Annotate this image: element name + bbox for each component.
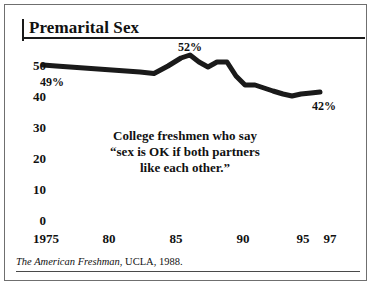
y-tick-0: 0 [20,214,46,227]
value-label-peak: 52% [178,41,202,53]
source-note: The American Freshman, UCLA, 1988. [16,256,183,268]
source-publication: The American Freshman [16,256,120,267]
value-label-end: 42% [312,100,336,112]
x-tick-90: 90 [228,232,258,245]
y-tick-20: 20 [20,152,46,165]
x-tick-1975: 1975 [24,232,68,245]
x-tick-97: 97 [315,232,345,245]
source-rest: , UCLA, 1988. [120,256,183,267]
y-tick-40: 40 [20,90,46,103]
y-tick-30: 30 [20,121,46,134]
x-tick-80: 80 [94,232,124,245]
data-series-line [43,55,320,96]
chart-annotation: College freshmen who say “sex is OK if b… [60,128,310,176]
x-tick-95: 95 [288,232,318,245]
value-label-start: 49% [40,76,64,88]
annotation-line-1: College freshmen who say [60,128,310,144]
annotation-line-2: “sex is OK if both partners [60,144,310,160]
y-tick-10: 10 [20,183,46,196]
annotation-line-3: like each other.” [60,160,310,176]
source-rule [16,271,360,272]
x-tick-85: 85 [161,232,191,245]
y-tick-50: 50 [20,59,46,72]
line-chart: 50 40 30 20 10 0 49% 52% 42% College fre… [0,0,373,287]
